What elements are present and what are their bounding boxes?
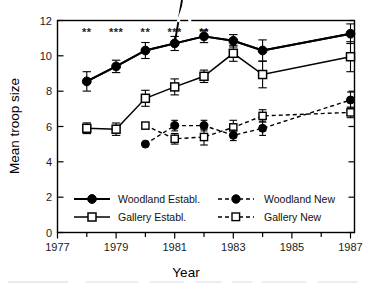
figure-root: 0 2 4 6 8 10 12 1977 1979 1981 xyxy=(0,0,372,286)
y-tick-label: 10 xyxy=(40,50,52,62)
legend-item-woodland-establ[interactable]: Woodland Establ. xyxy=(74,193,200,205)
x-tick-label: 1977 xyxy=(45,241,69,253)
legend-item-gallery-new[interactable]: Gallery New xyxy=(218,211,322,223)
legend: Woodland Establ. Gallery Establ. Woodlan… xyxy=(74,193,335,223)
x-axis-title: Year xyxy=(172,265,200,280)
legend-label-woodland-new: Woodland New xyxy=(264,193,335,205)
legend-label-gallery-establ: Gallery Establ. xyxy=(118,211,186,223)
x-tick-label: 1981 xyxy=(162,241,186,253)
series-woodland-establ xyxy=(82,0,355,91)
y-tick-label: 2 xyxy=(46,191,52,203)
filled-circle-icon xyxy=(232,195,240,203)
y-axis-title: Mean troop size xyxy=(7,78,22,174)
x-tick-label: 1987 xyxy=(338,241,362,253)
filled-circle-icon xyxy=(88,195,97,204)
y-tick-label: 8 xyxy=(46,85,52,97)
y-tick-label: 12 xyxy=(40,15,52,27)
chart-canvas: 0 2 4 6 8 10 12 1977 1979 1981 xyxy=(0,0,372,286)
error-bars-woodland-establ xyxy=(83,24,355,91)
legend-item-gallery-establ[interactable]: Gallery Establ. xyxy=(74,211,186,223)
significance-markers: ** *** ** *** ** xyxy=(82,26,209,38)
legend-label-gallery-new: Gallery New xyxy=(264,211,322,223)
significance-1979: *** xyxy=(109,26,124,38)
series-gallery-establ xyxy=(83,42,355,136)
x-tick-label: 1983 xyxy=(221,241,245,253)
x-tick-label: 1979 xyxy=(104,241,128,253)
x-tick-labels: 1977 1979 1981 1983 1985 1987 xyxy=(45,241,362,253)
y-tick-labels: 0 2 4 6 8 10 12 xyxy=(40,15,52,239)
x-axis-ticks xyxy=(58,233,351,239)
open-square-icon xyxy=(88,213,96,221)
y-tick-label: 6 xyxy=(46,121,52,133)
legend-label-woodland-establ: Woodland Establ. xyxy=(118,193,200,205)
caption-remnant xyxy=(8,281,358,283)
x-tick-label: 1985 xyxy=(280,241,304,253)
significance-1980: ** xyxy=(141,26,151,38)
y-tick-label: 4 xyxy=(46,156,52,168)
y-axis-ticks xyxy=(58,21,64,233)
significance-1978: ** xyxy=(82,26,92,38)
legend-item-woodland-new[interactable]: Woodland New xyxy=(218,193,335,205)
open-square-icon xyxy=(232,213,240,221)
y-tick-label: 0 xyxy=(46,227,52,239)
